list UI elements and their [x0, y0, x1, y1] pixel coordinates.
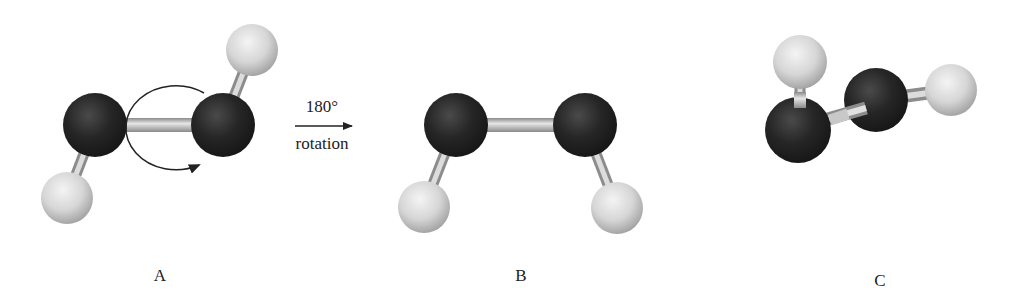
hydrogen-atom	[925, 64, 977, 116]
hydrogen-atom	[226, 24, 278, 76]
heavy-atom	[424, 93, 488, 157]
hydrogen-atom	[773, 35, 827, 89]
rotation-caption-label: rotation	[296, 134, 349, 154]
molecule-a-label: A	[154, 266, 166, 286]
heavy-atom	[844, 68, 908, 132]
hydrogen-atom	[398, 181, 450, 233]
molecule-c-label: C	[874, 271, 885, 291]
hydrogen-atom	[41, 172, 93, 224]
molecule-diagram	[0, 0, 1024, 303]
hydrogen-atom	[591, 182, 643, 234]
molecule-a	[41, 24, 278, 224]
heavy-atom	[553, 93, 617, 157]
molecule-c	[765, 35, 977, 163]
heavy-atom	[63, 93, 127, 157]
rotation-angle-label: 180°	[306, 97, 338, 117]
molecule-b-label: B	[515, 266, 526, 286]
molecule-b	[398, 93, 643, 234]
heavy-atom	[191, 93, 255, 157]
